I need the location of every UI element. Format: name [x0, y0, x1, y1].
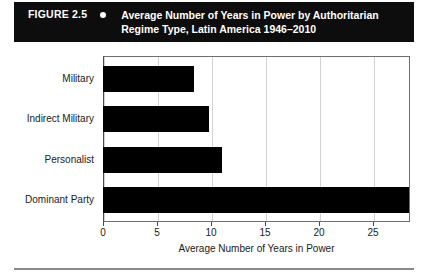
figure-number-label: FIGURE 2.5 [28, 8, 87, 21]
bar-military [103, 66, 194, 92]
figure-header-banner: FIGURE 2.5 Average Number of Years in Po… [14, 2, 414, 42]
x-tick-label-20: 20 [313, 227, 324, 238]
bar-series [103, 56, 410, 222]
bullet-dot-icon [100, 12, 106, 18]
bar-row-military [103, 66, 410, 92]
bar-row-indirect-military [103, 106, 410, 132]
category-label-dominant-party: Dominant Party [0, 187, 99, 213]
x-tick-label-15: 15 [259, 227, 270, 238]
category-axis-labels: Military Indirect Military Personalist D… [0, 56, 99, 222]
x-tick-label-10: 10 [205, 227, 216, 238]
figure-title-line-1: Average Number of Years in Power by Auth… [121, 8, 406, 22]
bar-indirect-military [103, 106, 209, 132]
figure-title-line-2: Regime Type, Latin America 1946–2010 [121, 22, 406, 36]
category-label-indirect-military: Indirect Military [0, 106, 99, 132]
category-label-military: Military [0, 66, 99, 92]
bar-row-personalist [103, 147, 410, 173]
x-tick-mark-15 [265, 222, 266, 226]
bottom-divider [14, 268, 414, 270]
x-tick-label-5: 5 [154, 227, 160, 238]
figure-title: Average Number of Years in Power by Auth… [121, 8, 406, 36]
bar-chart: Military Indirect Military Personalist D… [0, 46, 428, 261]
bar-personalist [103, 147, 222, 173]
x-tick-mark-5 [157, 222, 158, 226]
x-tick-mark-20 [319, 222, 320, 226]
x-tick-label-25: 25 [367, 227, 378, 238]
x-tick-label-0: 0 [100, 227, 106, 238]
bar-row-dominant-party [103, 187, 410, 213]
category-label-personalist: Personalist [0, 147, 99, 173]
x-axis-title: Average Number of Years in Power [103, 243, 410, 254]
x-tick-mark-25 [373, 222, 374, 226]
x-tick-mark-10 [211, 222, 212, 226]
x-axis: 0 5 10 15 20 25 [103, 222, 410, 244]
bar-dominant-party [103, 187, 409, 213]
x-tick-mark-0 [103, 222, 104, 226]
